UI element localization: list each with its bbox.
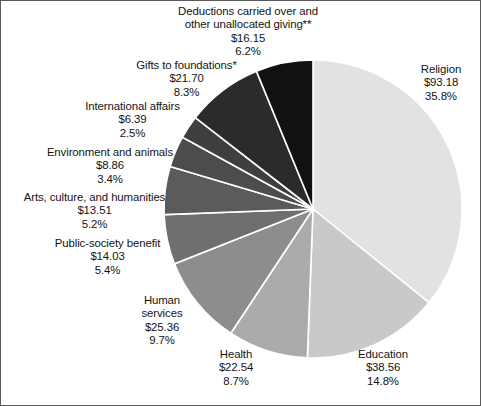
pie-chart-figure: Deductions carried over andother unalloc…: [0, 0, 481, 406]
pie-label-line: 9.7%: [119, 334, 205, 347]
pie-label-line: Arts, culture, and humanities: [4, 191, 185, 204]
pie-label-environment-animals: Environment and animals$8.863.4%: [25, 146, 195, 186]
pie-label-line: $93.18: [405, 76, 477, 89]
pie-label-line: International affairs: [61, 100, 204, 113]
pie-label-line: $21.70: [114, 72, 259, 85]
pie-label-line: 2.5%: [61, 127, 204, 140]
pie-label-line: $14.03: [31, 250, 184, 263]
pie-label-line: Gifts to foundations*: [114, 59, 259, 72]
pie-label-line: $25.36: [119, 321, 205, 334]
pie-label-line: Deductions carried over and: [148, 5, 348, 18]
pie-label-line: $16.15: [148, 32, 348, 45]
chart-area: Deductions carried over andother unalloc…: [1, 1, 480, 405]
pie-label-line: $6.39: [61, 113, 204, 126]
pie-label-line: Public-society benefit: [31, 237, 184, 250]
pie-label-line: services: [119, 307, 205, 320]
pie-label-line: $22.54: [197, 361, 275, 374]
pie-label-line: Education: [337, 348, 429, 361]
pie-label-line: other unallocated giving**: [148, 18, 348, 31]
pie-label-line: 35.8%: [405, 90, 477, 103]
pie-label-line: 8.7%: [197, 375, 275, 388]
pie-label-education: Education$38.5614.8%: [337, 348, 429, 388]
pie-label-public-society-benefit: Public-society benefit$14.035.4%: [31, 237, 184, 277]
pie-label-human-services: Humanservices$25.369.7%: [119, 294, 205, 347]
pie-label-line: 14.8%: [337, 375, 429, 388]
pie-label-line: Health: [197, 348, 275, 361]
pie-label-line: $8.86: [25, 159, 195, 172]
pie-label-line: $38.56: [337, 361, 429, 374]
pie-label-line: $13.51: [4, 204, 185, 217]
pie-label-health: Health$22.548.7%: [197, 348, 275, 388]
pie-label-religion: Religion$93.1835.8%: [405, 63, 477, 103]
pie-label-deductions-unallocated: Deductions carried over andother unalloc…: [148, 5, 348, 58]
pie-label-line: 5.2%: [4, 218, 185, 231]
pie-label-arts-culture-humanities: Arts, culture, and humanities$13.515.2%: [4, 191, 185, 231]
pie-label-line: 6.2%: [148, 45, 348, 58]
pie-label-international-affairs: International affairs$6.392.5%: [61, 100, 204, 140]
pie-label-line: 5.4%: [31, 264, 184, 277]
pie-label-line: 3.4%: [25, 173, 195, 186]
pie-label-gifts-to-foundations: Gifts to foundations*$21.708.3%: [114, 59, 259, 99]
pie-label-line: Human: [119, 294, 205, 307]
pie-label-line: Religion: [405, 63, 477, 76]
pie-label-line: 8.3%: [114, 86, 259, 99]
pie-label-line: Environment and animals: [25, 146, 195, 159]
